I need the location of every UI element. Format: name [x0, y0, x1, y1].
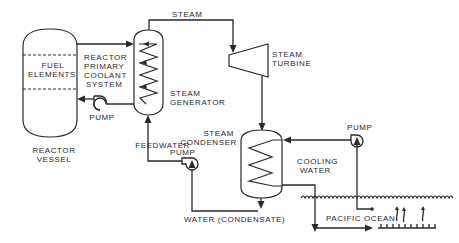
pacific-ocean [301, 196, 453, 228]
steam-condenser-label-1: STEAM [203, 129, 234, 138]
arrow-up-icon [354, 137, 361, 145]
arrow-right-icon [365, 225, 373, 232]
exhaust-line [259, 76, 266, 131]
primary-pump [94, 96, 107, 110]
arrow-down-icon [230, 45, 237, 53]
reactor-vessel: FUEL ELEMENTS [23, 29, 77, 137]
ocean-surface [301, 196, 453, 198]
arrow-left-icon [283, 137, 291, 144]
primary-coolant-label-1: REACTOR [84, 53, 127, 62]
steam-generator-label-2: GENERATOR [170, 98, 225, 107]
cooling-inlet-line [283, 137, 351, 144]
arrow-right-icon [126, 41, 134, 48]
fuel-elements-label-1: FUEL [42, 61, 65, 70]
condensate-label: WATER (CONDENSATE) [184, 215, 285, 224]
arrow-left-icon [77, 96, 85, 103]
arrow-up-icon [189, 160, 196, 168]
steam-turbine-label-1: STEAM [272, 50, 303, 59]
reactor-vessel-label-2: VESSEL [37, 155, 72, 164]
steam-generator-label-1: STEAM [170, 89, 201, 98]
primary-pump-label: PUMP [89, 113, 115, 122]
steam-turbine [229, 44, 268, 77]
reactor-vessel-label-1: REACTOR [32, 146, 75, 155]
primary-hot-leg [77, 41, 134, 48]
intake-point [370, 207, 374, 211]
steam-condenser [241, 130, 282, 198]
primary-coolant-label-3: COOLANT [84, 71, 127, 80]
ocean-floor [378, 224, 436, 228]
primary-coolant-label-4: SYSTEM [86, 80, 123, 89]
arrow-down-icon [258, 201, 265, 209]
primary-coolant-label-2: PRIMARY [84, 62, 125, 71]
steam-label: STEAM [172, 10, 203, 19]
pwr-cycle-diagram: FUEL ELEMENTS REACTOR VESSEL REACTOR PRI… [0, 0, 459, 243]
heat-rising-icon [395, 206, 425, 222]
cooling-water-label-2: WATER [300, 166, 331, 175]
cooling-water-label-1: COOLING [297, 157, 338, 166]
steam-generator [134, 30, 163, 115]
ocean-label: PACIFIC OCEAN [326, 214, 395, 223]
steam-turbine-label-2: TURBINE [272, 59, 311, 68]
fuel-elements-label-2: ELEMENTS [28, 70, 76, 79]
arrow-up-icon [145, 115, 152, 123]
pump-icon [182, 158, 198, 170]
cooling-pump [351, 135, 374, 211]
feedwater-pump-label-2: PUMP [170, 148, 196, 157]
cooling-pump-label: PUMP [347, 123, 373, 132]
